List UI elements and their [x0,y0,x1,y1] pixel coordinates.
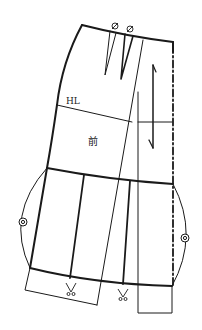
band-divider-1 [70,175,84,278]
scissors-icon-1 [66,283,76,296]
band-top-line [47,168,173,184]
notch-icon-left [19,218,27,226]
front-label: 前 [88,135,98,147]
diagonal-strip-line [97,40,143,305]
hip-line-label: HL [66,96,80,106]
band-divider-2 [123,181,130,284]
dart-1 [105,31,116,75]
notch-icon-right [181,234,189,242]
extension-rect [138,92,172,313]
band-left-edge [30,168,47,268]
hip-line [57,105,132,122]
scissors-icon-2 [118,289,128,301]
dart-symbol-icon-1 [112,23,118,29]
dart-2 [121,34,133,79]
pattern-diagram: HL 前 [0,0,202,330]
lower-band-box [25,268,97,305]
dart-symbol-icon-2 [127,26,133,32]
